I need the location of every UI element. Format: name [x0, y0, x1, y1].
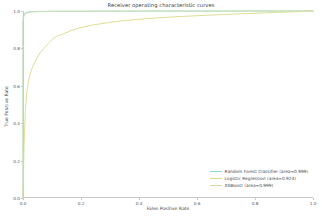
y-tick-label: 0.4	[7, 121, 20, 126]
legend-label: Logistic Regression (area=0.924)	[225, 176, 296, 182]
x-tick-mark	[139, 198, 140, 200]
y-tick-mark	[21, 198, 23, 199]
chart-legend: Random Forest Classifier (area=0.999)Log…	[210, 169, 308, 188]
x-axis-label: False Positive Rate	[23, 206, 313, 211]
legend-label: Random Forest Classifier (area=0.999)	[225, 169, 309, 175]
y-tick-label: 0.6	[7, 83, 20, 88]
legend-color-swatch	[210, 178, 222, 179]
y-tick-mark	[21, 161, 23, 162]
legend-label: XGBoost (area=0.999)	[225, 183, 274, 189]
legend-entry[interactable]: XGBoost (area=0.999)	[210, 183, 308, 189]
roc-chart-figure: Receiver operating characteristic curves…	[0, 0, 322, 218]
y-tick-mark	[21, 11, 23, 12]
x-tick-mark	[197, 198, 198, 200]
legend-entry[interactable]: Logistic Regression (area=0.924)	[210, 176, 308, 182]
x-tick-mark	[313, 198, 314, 200]
y-tick-mark	[21, 48, 23, 49]
legend-color-swatch	[210, 185, 222, 186]
y-tick-mark	[21, 86, 23, 87]
x-tick-mark	[81, 198, 82, 200]
x-tick-mark	[23, 198, 24, 200]
chart-title: Receiver operating characteristic curves	[0, 2, 322, 8]
y-tick-label: 1.0	[7, 9, 20, 14]
y-tick-mark	[21, 123, 23, 124]
y-tick-label: 0.2	[7, 158, 20, 163]
y-axis-label: True Positive Rate	[4, 77, 9, 137]
legend-color-swatch	[210, 171, 222, 172]
y-tick-label: 0.8	[7, 46, 20, 51]
legend-entry[interactable]: Random Forest Classifier (area=0.999)	[210, 169, 308, 175]
x-tick-mark	[255, 198, 256, 200]
y-tick-label: 0.0	[7, 196, 20, 201]
